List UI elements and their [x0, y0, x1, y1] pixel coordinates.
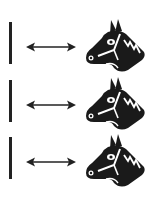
diagram-row: [0, 16, 158, 74]
vertical-line: [9, 22, 12, 64]
horse-head-icon: [84, 133, 148, 189]
double-arrow-icon: [26, 41, 76, 53]
horse-head-icon: [84, 76, 148, 132]
diagram-row: [0, 74, 158, 132]
double-arrow-icon: [26, 156, 76, 168]
diagram-row: [0, 131, 158, 189]
double-arrow-icon: [26, 99, 76, 111]
vertical-line: [9, 137, 12, 179]
vertical-line: [9, 80, 12, 122]
horse-head-icon: [84, 18, 148, 74]
